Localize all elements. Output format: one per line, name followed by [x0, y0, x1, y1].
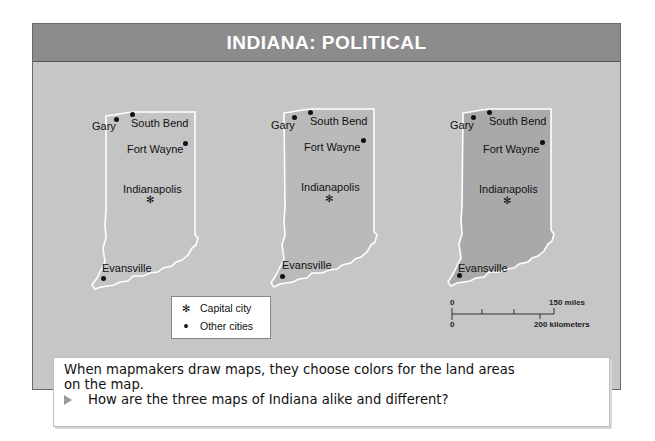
question-text: How are the three maps of Indiana alike … [88, 392, 449, 407]
scale-miles-label: 150 miles [549, 298, 585, 307]
city-evansville-2: Evansville [282, 259, 332, 271]
capital-star-icon-3: ✻ [503, 196, 511, 206]
city-south-bend-3: South Bend [489, 115, 547, 127]
city-indianapolis-3: Indianapolis [479, 183, 538, 195]
capital-star-icon-2: ✻ [325, 194, 333, 204]
capital-star-icon: ✻ [172, 303, 200, 314]
city-gary-1: Gary [92, 120, 116, 132]
fort-wayne-dot-1 [183, 141, 188, 146]
triangle-bullet-icon [64, 395, 72, 405]
scale-bar: 0 150 miles 0 200 kilometers [448, 298, 608, 328]
legend-row-capital: ✻ Capital city [172, 302, 251, 314]
fort-wayne-dot-3 [540, 140, 545, 145]
city-evansville-3: Evansville [458, 262, 508, 274]
scale-miles-zero: 0 [450, 298, 454, 307]
scale-km-zero: 0 [450, 320, 454, 329]
caption-box: When mapmakers draw maps, they choose co… [53, 357, 610, 427]
evansville-dot-2 [280, 274, 285, 279]
city-dot-icon: • [172, 321, 200, 331]
question-row: How are the three maps of Indiana alike … [64, 392, 599, 407]
scale-km-label: 200 kilometers [534, 320, 590, 329]
city-indianapolis-2: Indianapolis [301, 181, 360, 193]
scale-line [448, 307, 558, 321]
city-south-bend-1: South Bend [131, 117, 189, 129]
legend-row-other: • Other cities [172, 320, 253, 332]
city-gary-3: Gary [450, 119, 474, 131]
evansville-dot-1 [101, 276, 106, 281]
fort-wayne-dot-2 [361, 138, 366, 143]
caption-line-1: When mapmakers draw maps, they choose co… [64, 362, 599, 377]
capital-star-icon-1: ✻ [146, 195, 154, 205]
city-fort-wayne-3: Fort Wayne [483, 143, 539, 155]
city-south-bend-2: South Bend [310, 115, 368, 127]
city-fort-wayne-1: Fort Wayne [127, 143, 183, 155]
city-gary-2: Gary [271, 119, 295, 131]
caption-line-2: on the map. [64, 377, 599, 392]
map-legend: ✻ Capital city • Other cities [171, 296, 271, 339]
city-evansville-1: Evansville [102, 262, 152, 274]
city-fort-wayne-2: Fort Wayne [304, 141, 360, 153]
legend-other-label: Other cities [200, 320, 253, 332]
legend-capital-label: Capital city [200, 302, 251, 314]
